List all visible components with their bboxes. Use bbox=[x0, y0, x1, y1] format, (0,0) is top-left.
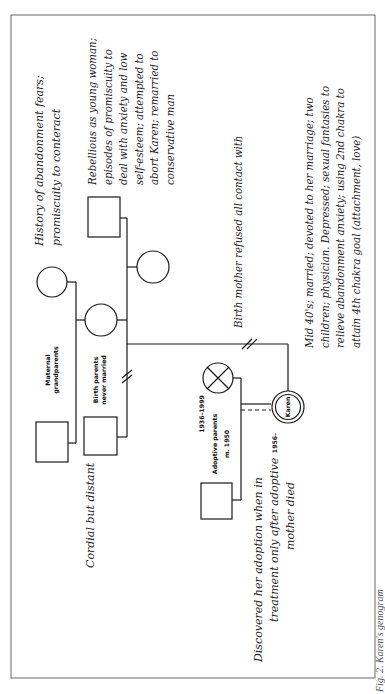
svg-text:abort Karen; remarried to: abort Karen; remarried to bbox=[149, 51, 160, 185]
karen-name-label: Karen bbox=[284, 397, 291, 418]
birth-father-note: Cordial but distant bbox=[84, 462, 97, 568]
maternal-grandmother-symbol bbox=[37, 267, 67, 297]
svg-text:mother died: mother died bbox=[284, 482, 297, 550]
birth-mother-symbol bbox=[85, 304, 117, 336]
svg-text:Mid 40's; married; devoted to: Mid 40's; married; devoted to her marria… bbox=[304, 97, 315, 349]
svg-text:conservative man: conservative man bbox=[165, 94, 176, 185]
svg-text:episodes of promiscuity to: episodes of promiscuity to bbox=[103, 49, 114, 185]
svg-text:attain 4th chakra goal (attach: attain 4th chakra goal (attachment, love… bbox=[351, 136, 362, 348]
svg-text:Birth parents: Birth parents bbox=[92, 357, 100, 404]
svg-text:promiscuity to conteract: promiscuity to conteract bbox=[50, 108, 63, 246]
svg-text:self-esteem; attempted to: self-esteem; attempted to bbox=[134, 53, 145, 185]
svg-text:relieve abandonment anxiety; u: relieve abandonment anxiety; using 2nd c… bbox=[335, 88, 346, 348]
figure-caption: Fig. 2. Karen's genogram bbox=[374, 589, 385, 693]
svg-text:treatment only after adoptive: treatment only after adoptive bbox=[268, 457, 281, 622]
svg-text:children; physician. Depressed: children; physician. Depressed; sexual f… bbox=[320, 86, 331, 348]
maternal-grandparents-label: Maternal grandparents bbox=[44, 346, 60, 394]
svg-text:Rebellious as young woman;: Rebellious as young woman; bbox=[87, 38, 98, 186]
genogram-figure: Maternal grandparents Birth parents neve… bbox=[0, 0, 385, 694]
birth-parents-label: Birth parents never married bbox=[92, 355, 107, 405]
adoptive-parents-label: Adoptive parents bbox=[211, 414, 219, 475]
maternal-grandfather-symbol bbox=[36, 422, 68, 462]
adoptive-mother-years: 1936–1999 bbox=[198, 395, 205, 433]
adoptive-marriage-date: m. 1950 bbox=[223, 429, 230, 458]
svg-text:deal with anxiety and low: deal with anxiety and low bbox=[118, 52, 129, 185]
svg-text:never married: never married bbox=[100, 355, 107, 405]
karen-years: 1956– bbox=[271, 433, 278, 453]
birth-mother-note: Rebellious as young woman; episodes of p… bbox=[87, 38, 176, 186]
svg-text:grandparents: grandparents bbox=[52, 346, 60, 394]
birth-father-symbol bbox=[84, 417, 117, 455]
adoptive-father-symbol bbox=[201, 483, 232, 519]
grandmother-note: History of abandonment fears; promiscuit… bbox=[33, 75, 63, 247]
svg-text:Maternal: Maternal bbox=[44, 354, 51, 385]
cutoff-note: Birth mother refused all contact with bbox=[233, 136, 244, 329]
svg-text:Discovered her adoption when i: Discovered her adoption when in bbox=[252, 477, 265, 663]
stepfather-symbol bbox=[88, 197, 120, 237]
adoption-note: Discovered her adoption when in treatmen… bbox=[252, 457, 297, 663]
svg-text:History of abandonment fears;: History of abandonment fears; bbox=[33, 75, 46, 247]
karen-note: Mid 40's; married; devoted to her marria… bbox=[304, 86, 362, 349]
half-sibling-symbol bbox=[137, 251, 169, 283]
adoptive-mother-symbol bbox=[203, 363, 233, 393]
